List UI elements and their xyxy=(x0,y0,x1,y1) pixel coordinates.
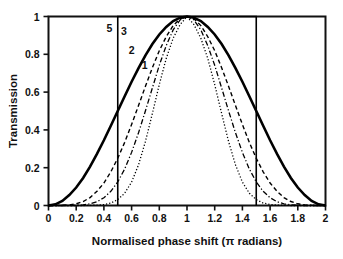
x-tick-label: 0 xyxy=(46,212,52,224)
y-tick-label: 1 xyxy=(34,11,40,23)
x-tick-label: 0.8 xyxy=(152,212,167,224)
curve-label-5: 5 xyxy=(107,22,113,34)
y-tick-label: 0.8 xyxy=(25,48,40,60)
x-tick-label: 0.2 xyxy=(69,212,84,224)
curve-label-3: 3 xyxy=(121,25,127,37)
y-tick-label: 0.4 xyxy=(25,124,40,136)
y-tick-label: 0.2 xyxy=(25,162,40,174)
y-tick-label: 0 xyxy=(34,200,40,212)
y-axis-title: Transmission xyxy=(7,74,19,148)
y-tick-label: 0.6 xyxy=(25,86,40,98)
x-tick-label: 1.4 xyxy=(235,212,250,224)
x-tick-label: 2 xyxy=(323,212,329,224)
curve-label-1: 1 xyxy=(142,59,148,71)
x-tick-label: 1 xyxy=(184,212,190,224)
transmission-chart: 00.20.40.60.811.21.41.61.8200.20.40.60.8… xyxy=(0,0,343,259)
curve-label-2: 2 xyxy=(129,44,135,56)
x-tick-label: 1.2 xyxy=(207,212,222,224)
x-tick-label: 0.6 xyxy=(124,212,139,224)
x-tick-label: 1.6 xyxy=(263,212,278,224)
x-tick-label: 1.8 xyxy=(290,212,305,224)
x-axis-title: Normalised phase shift (π radians) xyxy=(92,235,282,247)
x-tick-label: 0.4 xyxy=(97,212,112,224)
